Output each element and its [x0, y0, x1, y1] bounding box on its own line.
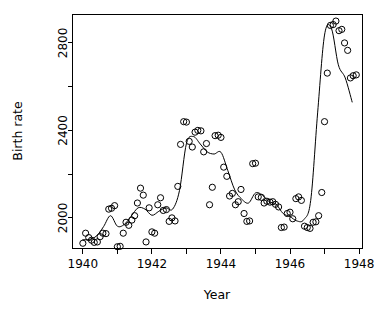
data-point-circle — [238, 186, 244, 192]
data-point-circle — [316, 213, 322, 219]
data-point-circle — [321, 119, 327, 125]
plot-frame — [73, 15, 363, 249]
chart-container: 200024002800 19401942194419461948 Birth … — [0, 0, 386, 320]
data-point-circle — [189, 144, 195, 150]
y-tick-label: 2400 — [56, 115, 70, 146]
data-point-circle — [206, 202, 212, 208]
x-tick-label: 1940 — [68, 257, 99, 271]
y-axis-tick-labels: 200024002800 — [56, 28, 70, 234]
plot-box-border — [73, 15, 363, 249]
x-axis-ticks — [83, 249, 359, 254]
data-point-circle — [201, 149, 207, 155]
data-point-circle — [143, 239, 149, 245]
y-tick-label: 2800 — [56, 28, 70, 59]
data-point-circle — [209, 184, 215, 190]
y-tick-label: 2000 — [56, 203, 70, 234]
data-point-circle — [177, 141, 183, 147]
data-point-circle — [345, 47, 351, 53]
data-point-circle — [224, 173, 230, 179]
x-tick-label: 1944 — [206, 257, 237, 271]
data-point-circle — [155, 202, 161, 208]
data-point-circle — [157, 195, 163, 201]
data-point-circle — [80, 240, 86, 246]
x-tick-label: 1942 — [137, 257, 168, 271]
data-point-circle — [241, 210, 247, 216]
data-point-circle — [140, 192, 146, 198]
data-points — [80, 18, 360, 250]
data-point-circle — [341, 40, 347, 46]
data-point-circle — [134, 200, 140, 206]
data-point-circle — [83, 230, 89, 236]
data-point-circle — [203, 140, 209, 146]
x-axis-title: Year — [203, 287, 231, 302]
birth-rate-scatter-plot: 200024002800 19401942194419461948 Birth … — [0, 0, 386, 320]
x-axis-tick-labels: 19401942194419461948 — [68, 257, 375, 271]
data-point-circle — [120, 230, 126, 236]
data-point-circle — [221, 164, 227, 170]
data-point-circle — [324, 70, 330, 76]
data-point-circle — [137, 185, 143, 191]
y-axis-title: Birth rate — [10, 101, 25, 161]
x-tick-label: 1946 — [275, 257, 306, 271]
data-point-circle — [319, 189, 325, 195]
x-tick-label: 1948 — [344, 257, 375, 271]
data-point-circle — [146, 205, 152, 211]
